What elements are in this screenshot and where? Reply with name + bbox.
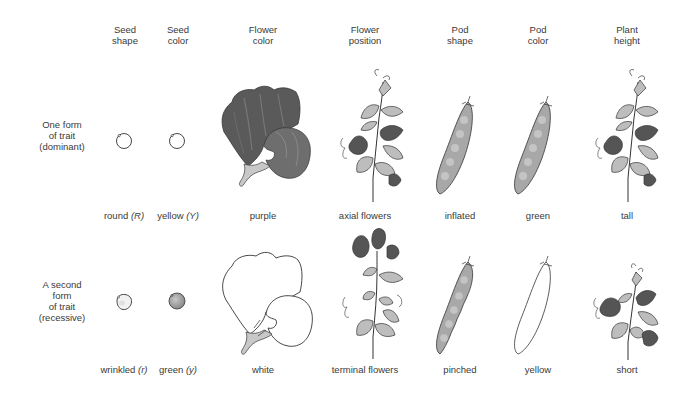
header-line: color bbox=[138, 35, 218, 46]
row-label-line: (dominant) bbox=[22, 141, 102, 152]
trait-text: yellow bbox=[157, 210, 183, 221]
header-line: position bbox=[325, 35, 405, 46]
trait-label-purple: purple bbox=[208, 210, 318, 221]
yellow-seed-icon bbox=[167, 131, 187, 151]
green-pod-icon bbox=[510, 96, 560, 201]
header-line: Plant bbox=[587, 24, 667, 35]
row-label-line: (recessive) bbox=[22, 312, 102, 323]
purple-flower-icon bbox=[214, 80, 314, 190]
trait-label-terminal-flowers: terminal flowers bbox=[310, 364, 420, 375]
white-flower-icon bbox=[214, 246, 314, 358]
green-seed-icon bbox=[167, 291, 187, 311]
row-label-line: of trait bbox=[22, 130, 102, 141]
header-line: shape bbox=[420, 35, 500, 46]
row-label-dominant: One form of trait (dominant) bbox=[22, 119, 102, 152]
header-line: color bbox=[223, 35, 303, 46]
trait-text: green bbox=[159, 364, 183, 375]
allele-symbol: (Y) bbox=[186, 210, 199, 221]
column-header-pod-shape: Pod shape bbox=[420, 24, 500, 46]
row-label-line: A second bbox=[22, 279, 102, 290]
round-seed-icon bbox=[114, 131, 134, 151]
header-line: Pod bbox=[420, 24, 500, 35]
inflated-pod-icon bbox=[432, 96, 482, 201]
header-line: Seed bbox=[138, 24, 218, 35]
axial-flowers-plant-icon bbox=[333, 68, 413, 208]
row-label-line: of trait bbox=[22, 301, 102, 312]
header-line: color bbox=[498, 35, 578, 46]
tall-plant-icon bbox=[588, 68, 668, 208]
column-header-flower-color: Flower color bbox=[223, 24, 303, 46]
allele-symbol: (y) bbox=[186, 364, 197, 375]
trait-label-white: white bbox=[208, 364, 318, 375]
row-label-line: form bbox=[22, 290, 102, 301]
short-plant-icon bbox=[588, 264, 668, 364]
header-line: Flower bbox=[325, 24, 405, 35]
trait-label-tall: tall bbox=[572, 210, 682, 221]
pinched-pod-icon bbox=[432, 256, 482, 361]
wrinkled-seed-icon bbox=[114, 292, 134, 312]
header-line: height bbox=[587, 35, 667, 46]
column-header-plant-height: Plant height bbox=[587, 24, 667, 46]
header-line: Pod bbox=[498, 24, 578, 35]
yellow-pod-icon bbox=[510, 256, 560, 361]
terminal-flowers-plant-icon bbox=[333, 225, 413, 365]
column-header-flower-position: Flower position bbox=[325, 24, 405, 46]
column-header-seed-color: Seed color bbox=[138, 24, 218, 46]
column-header-pod-color: Pod color bbox=[498, 24, 578, 46]
trait-label-axial-flowers: axial flowers bbox=[310, 210, 420, 221]
header-line: Flower bbox=[223, 24, 303, 35]
row-label-line: One form bbox=[22, 119, 102, 130]
row-label-recessive: A second form of trait (recessive) bbox=[22, 279, 102, 323]
trait-label-short: short bbox=[572, 364, 682, 375]
